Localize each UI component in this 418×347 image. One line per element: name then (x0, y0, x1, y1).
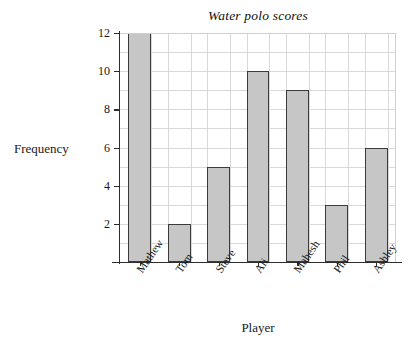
y-tick-mark (114, 148, 119, 149)
bar (286, 90, 309, 262)
y-tick-label: 8 (84, 103, 110, 115)
bar (128, 33, 151, 262)
bar (247, 71, 270, 262)
y-tick-mark (114, 71, 119, 72)
plot-right-border (395, 33, 396, 262)
y-tick-mark (114, 186, 119, 187)
y-tick-label: 2 (84, 218, 110, 230)
y-tick-mark (114, 109, 119, 110)
y-tick-label: 12 (84, 27, 110, 39)
water-polo-scores-bar-chart: Water polo scores 24681012 MathewTomStev… (0, 0, 418, 347)
y-tick-mark (114, 33, 119, 34)
plot-area (120, 33, 396, 262)
plot-top-border (120, 33, 396, 34)
bar (325, 205, 348, 262)
bar (365, 148, 388, 263)
y-tick-label: 10 (84, 65, 110, 77)
y-tick-label: 4 (84, 180, 110, 192)
y-axis-line (119, 31, 120, 264)
y-tick-mark (114, 224, 119, 225)
y-axis-title: Frequency (14, 141, 69, 157)
x-axis-title: Player (120, 320, 396, 336)
y-tick-label: 6 (84, 142, 110, 154)
chart-title: Water polo scores (120, 8, 396, 24)
bars-group (120, 33, 396, 262)
